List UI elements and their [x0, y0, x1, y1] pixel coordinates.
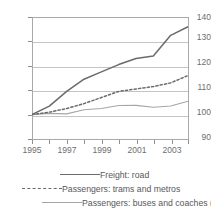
x-tick	[32, 140, 33, 144]
x-tick	[67, 140, 68, 144]
legend-item-buses-and-coaches[interactable]: Passengers: buses and coaches (1)	[0, 196, 211, 210]
legend-label: Passengers: trams and metros	[62, 185, 180, 194]
legend-item-trams-and-metros[interactable]: Passengers: trams and metros	[0, 182, 211, 196]
x-axis-label: 1999	[85, 146, 119, 155]
legend-item-freight-road[interactable]: Freight: road	[0, 168, 211, 182]
legend-line-icon-trams	[16, 184, 62, 194]
x-tick	[102, 140, 103, 144]
series-line-buses-and-coaches	[32, 101, 188, 114]
series-line-trams-and-metros	[32, 76, 188, 115]
chart-container: 140 130 120 110 100 90 1995 1997	[0, 0, 211, 211]
x-tick	[137, 140, 138, 144]
legend-line-icon-freight	[54, 170, 100, 180]
chart-title-remnant	[24, 0, 194, 3]
x-tick	[188, 140, 189, 144]
x-axis-label: 2003	[155, 146, 189, 155]
legend-label: Passengers: buses and coaches (1)	[82, 199, 211, 208]
x-axis-label: 2001	[120, 146, 154, 155]
chart-legend: Freight: road Passengers: trams and metr…	[0, 168, 211, 210]
series-line-freight-road	[32, 27, 188, 115]
x-axis-label: 1995	[15, 146, 49, 155]
legend-label: Freight: road	[100, 171, 149, 180]
x-tick	[154, 140, 155, 144]
x-tick	[84, 140, 85, 144]
x-tick	[172, 140, 173, 144]
x-tick	[49, 140, 50, 144]
series-layer	[32, 17, 189, 140]
x-tick	[119, 140, 120, 144]
x-axis-label: 1997	[50, 146, 84, 155]
legend-line-icon-buses	[36, 198, 82, 208]
